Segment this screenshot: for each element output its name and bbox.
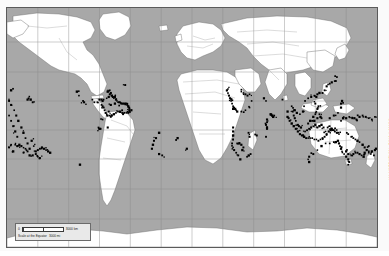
reef-dot [308, 156, 310, 158]
reef-dot [334, 75, 336, 77]
reef-dot [127, 112, 129, 114]
reef-dot [352, 153, 354, 155]
reef-dot [240, 111, 242, 113]
reef-dot [267, 120, 268, 121]
reef-dot [232, 135, 233, 136]
reef-dot [254, 134, 256, 136]
reef-dot [81, 102, 82, 103]
reef-dot [339, 145, 341, 147]
reef-dot [334, 80, 336, 82]
reef-dot [304, 131, 306, 133]
reef-dot [358, 116, 360, 118]
reef-dot [326, 85, 328, 87]
reef-dot [329, 117, 331, 119]
reef-dot [79, 164, 81, 166]
reef-dot [12, 151, 13, 152]
reef-dot [246, 156, 248, 158]
reef-dot [118, 105, 120, 107]
reef-dot [8, 100, 10, 102]
reef-dot [8, 99, 9, 100]
reef-dot [303, 131, 304, 132]
reef-dot [338, 133, 340, 135]
figure-page: 0 3000 km Scale at the Equator 3000 mi I… [0, 0, 389, 256]
scale-tick-zero: 0 [18, 228, 20, 231]
reef-dot [324, 89, 326, 91]
reef-dot [293, 125, 295, 127]
reef-dot [23, 130, 24, 131]
reef-dot [105, 112, 107, 114]
reef-dot [108, 111, 110, 113]
reef-dot [161, 154, 163, 156]
reef-dot [352, 155, 353, 156]
reef-dot [303, 105, 305, 107]
reef-dot [265, 100, 267, 102]
reef-dot [333, 129, 335, 131]
reef-dot [266, 126, 267, 127]
reef-dot [334, 127, 336, 129]
reef-dot [243, 150, 244, 151]
reef-dot [314, 124, 316, 126]
reef-dot [373, 155, 375, 157]
reef-dot [265, 123, 267, 125]
reef-dot [331, 128, 333, 130]
reef-dot [366, 149, 368, 151]
reef-dot [317, 140, 319, 142]
reef-dot [107, 126, 109, 128]
reef-dot [163, 156, 164, 157]
reef-dot [299, 130, 300, 131]
reef-dot [243, 94, 244, 95]
reef-dot [35, 153, 37, 155]
reef-dot [355, 152, 357, 154]
reef-dot [151, 148, 153, 150]
reef-dot [29, 148, 31, 150]
reef-dot [337, 140, 339, 142]
reef-dot [158, 132, 160, 134]
reef-dot [304, 136, 305, 137]
reef-dot [316, 139, 318, 141]
reef-dot [336, 76, 338, 78]
reef-dot [343, 153, 345, 155]
reef-dot [33, 138, 34, 139]
reef-dot [327, 84, 329, 86]
reef-dot [251, 100, 253, 102]
reef-dot [349, 117, 350, 118]
reef-dot [17, 120, 19, 122]
reef-dot [305, 137, 307, 139]
reef-dot [32, 154, 34, 156]
reef-dot [85, 104, 86, 105]
reef-dot [311, 137, 313, 139]
reef-dot [291, 105, 293, 107]
reef-dot [121, 109, 123, 111]
reef-dot [321, 117, 323, 119]
reef-dot [153, 137, 154, 138]
reef-dot [100, 118, 102, 120]
reef-dot [15, 143, 16, 144]
reef-dot [185, 150, 186, 151]
reef-dot [101, 99, 103, 101]
reef-dot [362, 156, 364, 158]
reef-dot [108, 96, 110, 98]
reef-dot [228, 87, 229, 88]
reef-dot [26, 99, 28, 101]
reef-dot [323, 127, 325, 129]
reef-dot [41, 156, 42, 157]
reef-dot [14, 130, 16, 132]
reef-dot [49, 152, 51, 154]
reef-dot [329, 143, 331, 145]
reef-dot [307, 97, 309, 99]
reef-dot [314, 103, 316, 105]
reef-dot [326, 133, 328, 135]
reef-dot [310, 126, 312, 128]
reef-dot [125, 112, 127, 114]
reef-dot [237, 143, 238, 144]
reef-dot [110, 92, 112, 94]
reef-dot [353, 117, 355, 119]
reef-dot [8, 147, 9, 148]
reef-dot [263, 97, 265, 99]
reef-dot [296, 128, 297, 129]
reef-dot [23, 152, 25, 154]
reef-dot [23, 147, 25, 149]
reef-dot [32, 101, 34, 103]
reef-dot [239, 142, 241, 144]
reef-dot [175, 139, 177, 141]
